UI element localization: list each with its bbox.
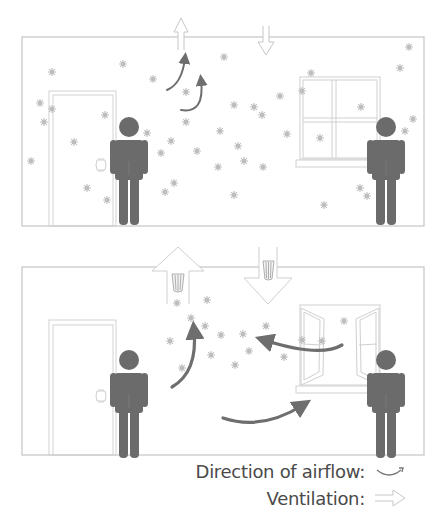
particle-icon: [283, 130, 291, 138]
particle-icon: [230, 101, 238, 109]
particle-icon: [161, 188, 169, 196]
particle-icon: [182, 118, 190, 126]
particle-icon: [405, 43, 413, 51]
particle-icon: [214, 163, 222, 171]
airflow-arrows: [172, 330, 342, 422]
legend-label: Direction of airflow:: [196, 461, 365, 482]
vent-exhaust-arrow-icon: [174, 18, 188, 50]
particle-icon: [298, 336, 306, 344]
airflow-arrow-icon: [167, 58, 185, 90]
particle-icon: [363, 192, 371, 200]
particle-icon: [234, 142, 242, 150]
particle-icon: [307, 69, 315, 77]
particle-icon: [239, 330, 247, 338]
airflow-arrow-icon: [181, 80, 202, 110]
curved-arrow-icon: [373, 462, 407, 482]
airflow-arrows: [167, 58, 202, 110]
door-knob-icon: [96, 390, 106, 402]
particles: [27, 43, 417, 209]
particle-icon: [262, 322, 270, 330]
door: [49, 320, 116, 455]
scene-without-ventilation: [22, 18, 424, 226]
particle-icon: [40, 118, 48, 126]
legend-label: Ventilation:: [267, 488, 365, 509]
room-wall: [22, 267, 424, 455]
particle-icon: [316, 134, 324, 142]
vent-supply-arrow-icon: [258, 26, 274, 55]
particle-icon: [101, 111, 109, 119]
particle-icon: [409, 115, 417, 123]
particle-icon: [280, 353, 288, 361]
particle-icon: [217, 331, 225, 339]
particle-icon: [340, 317, 348, 325]
particle-icon: [320, 201, 328, 209]
particle-icon: [36, 99, 44, 107]
vent-supply-arrow-icon: [244, 247, 292, 304]
particle-icon: [250, 103, 258, 111]
vent-exhaust-arrow-icon: [152, 247, 204, 304]
particle-icon: [216, 127, 224, 135]
door: [49, 91, 116, 226]
particle-icon: [396, 64, 404, 72]
particle-icon: [240, 157, 248, 165]
particle-icon: [231, 361, 239, 369]
particle-icon: [70, 138, 78, 146]
particle-icon: [230, 191, 238, 199]
particle-icon: [143, 129, 151, 137]
person-icon: [367, 117, 405, 225]
particle-icon: [83, 184, 91, 192]
ventilation-diagram: [0, 0, 447, 520]
particle-icon: [27, 157, 35, 165]
particle-icon: [119, 60, 127, 68]
fan-icon: [172, 274, 184, 292]
particle-icon: [245, 347, 253, 355]
particle-icon: [170, 179, 178, 187]
particle-icon: [207, 351, 215, 359]
airflow-arrow-icon: [223, 405, 303, 422]
particle-icon: [182, 88, 190, 96]
airflow-arrow-icon: [172, 330, 195, 387]
particle-icon: [149, 75, 157, 83]
particle-icon: [166, 337, 174, 345]
particle-icon: [203, 296, 211, 304]
particle-icon: [298, 87, 306, 95]
door-knob-icon: [96, 159, 106, 171]
particle-icon: [201, 322, 209, 330]
particle-icon: [401, 127, 409, 135]
particle-icon: [356, 184, 364, 192]
legend-item-airflow: Direction of airflow:: [196, 461, 407, 482]
particle-icon: [258, 111, 266, 119]
fan-icon: [263, 261, 274, 280]
particle-icon: [157, 149, 165, 157]
particle-icon: [178, 364, 186, 372]
particle-icon: [167, 137, 175, 145]
person-icon: [367, 350, 405, 458]
particle-icon: [103, 196, 111, 204]
particle-icon: [259, 163, 267, 171]
legend-item-ventilation: Ventilation:: [267, 487, 407, 509]
particle-icon: [187, 314, 195, 322]
particle-icon: [48, 68, 56, 76]
particle-icon: [220, 53, 228, 61]
particle-icon: [357, 103, 365, 111]
particle-icon: [276, 92, 284, 100]
particle-icon: [318, 337, 326, 345]
particle-icon: [193, 147, 201, 155]
hollow-arrow-icon: [373, 487, 407, 509]
particle-icon: [173, 299, 181, 307]
scene-with-ventilation: [22, 247, 424, 458]
